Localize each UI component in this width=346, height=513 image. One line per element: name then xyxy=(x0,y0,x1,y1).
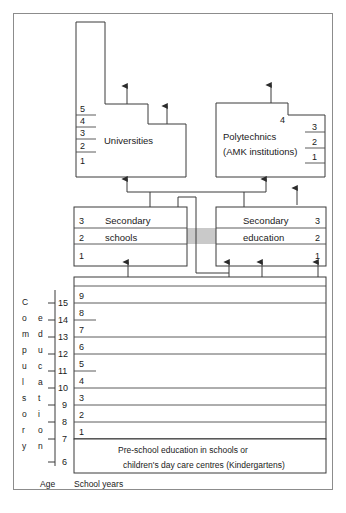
secondary-education-label-line1: Secondary xyxy=(243,215,289,226)
age-label-13: 13 xyxy=(58,332,68,342)
svg-text:u: u xyxy=(22,361,27,371)
comprehensive-year-5: 5 xyxy=(79,359,84,369)
svg-text:a: a xyxy=(38,377,43,387)
svg-text:u: u xyxy=(38,345,43,355)
comprehensive-year-6: 6 xyxy=(79,342,84,352)
svg-text:m: m xyxy=(22,329,29,339)
svg-text:o: o xyxy=(38,425,43,435)
polytechnic-year-1: 1 xyxy=(312,152,317,162)
svg-text:o: o xyxy=(22,409,27,419)
comprehensive-year-3: 3 xyxy=(79,393,84,403)
comprehensive-year-2: 2 xyxy=(79,410,84,420)
svg-text:i: i xyxy=(38,409,40,419)
comprehensive-school-box[interactable] xyxy=(74,277,326,439)
age-label-7: 7 xyxy=(62,434,67,444)
svg-text:o: o xyxy=(22,313,27,323)
svg-text:n: n xyxy=(38,441,43,451)
polytechnic-year-3: 3 xyxy=(312,122,317,132)
svg-text:p: p xyxy=(22,345,27,355)
polytechnic-year-4: 4 xyxy=(280,115,285,125)
secondary-education-year-1: 1 xyxy=(315,251,320,261)
age-axis-label: Age xyxy=(40,479,55,489)
polytechnic-year-2: 2 xyxy=(312,137,317,147)
preschool-line2: children's day care centres (Kindergarte… xyxy=(123,460,285,470)
secondary-education-year-3: 3 xyxy=(315,216,320,226)
secondary-schools-label-line1: Secondary xyxy=(105,215,151,226)
svg-text:r: r xyxy=(22,425,25,435)
secondary-schools-year-3: 3 xyxy=(79,216,84,226)
secondary-schools-label-line2: schools xyxy=(105,232,137,243)
age-label-10: 10 xyxy=(58,383,68,393)
university-year-4: 4 xyxy=(80,116,85,126)
age-label-12: 12 xyxy=(58,349,68,359)
school-years-axis-label: School years xyxy=(74,479,123,489)
university-year-1: 1 xyxy=(80,156,85,166)
age-label-11: 11 xyxy=(58,366,67,376)
svg-text:e: e xyxy=(38,313,43,323)
comprehensive-year-9: 9 xyxy=(79,291,84,301)
university-year-3: 3 xyxy=(80,128,85,138)
svg-text:s: s xyxy=(22,393,26,403)
diagram-canvas: 5 4 3 2 1 Universities 4 3 2 1 Polytechn… xyxy=(0,0,346,513)
age-label-8: 8 xyxy=(62,417,67,427)
secondary-schools-year-1: 1 xyxy=(79,251,84,261)
comprehensive-year-8: 8 xyxy=(79,308,84,318)
university-year-5: 5 xyxy=(80,104,85,114)
svg-text:C: C xyxy=(22,297,28,307)
age-label-9: 9 xyxy=(62,400,67,410)
age-label-14: 14 xyxy=(58,315,68,325)
secondary-schools-year-2: 2 xyxy=(79,233,84,243)
polytechnics-label-line2: (AMK institutions) xyxy=(223,146,297,157)
svg-text:d: d xyxy=(38,329,43,339)
svg-text:l: l xyxy=(22,377,24,387)
education-system-diagram: 5 4 3 2 1 Universities 4 3 2 1 Polytechn… xyxy=(0,0,346,513)
comprehensive-year-1: 1 xyxy=(79,427,84,437)
comprehensive-year-4: 4 xyxy=(79,376,84,386)
secondary-education-label-line2: education xyxy=(243,232,284,243)
secondary-education-year-2: 2 xyxy=(315,233,320,243)
age-label-15: 15 xyxy=(58,298,68,308)
university-year-2: 2 xyxy=(80,141,85,151)
universities-label: Universities xyxy=(104,135,153,146)
age-label-6: 6 xyxy=(62,457,67,467)
preschool-line1: Pre-school education in schools or xyxy=(118,445,248,455)
polytechnics-label-line1: Polytechnics xyxy=(223,131,277,142)
comprehensive-year-7: 7 xyxy=(79,325,84,335)
